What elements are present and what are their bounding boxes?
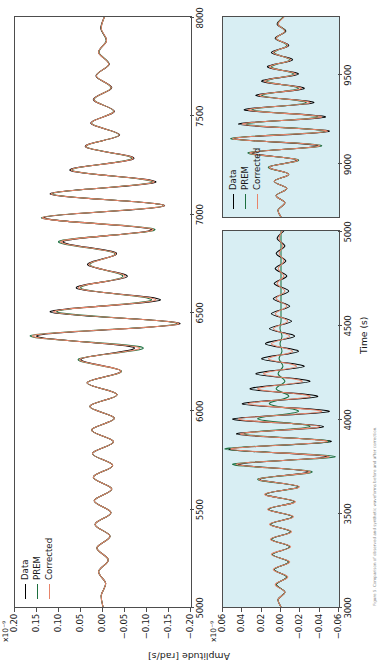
x-tick-mark (338, 513, 342, 514)
legend-label: Data (228, 169, 238, 190)
x-tick-mark (190, 17, 194, 18)
x-tick-mark (338, 163, 342, 164)
x-tick-label: 7500 (195, 106, 205, 127)
trace-corrected (231, 231, 330, 607)
chart-panel-top: DataPREMCorrected (14, 16, 192, 608)
y-tick-mark (241, 608, 242, 612)
y-tick-label: 0.00 (275, 614, 285, 646)
x-tick-mark (190, 509, 194, 510)
legend-item-corrected: Corrected (44, 538, 54, 599)
y-tick-label: 0.02 (256, 614, 266, 646)
legend-swatch-corrected-icon (257, 194, 258, 209)
y-tick-mark (146, 608, 147, 612)
legend-label: Data (20, 559, 30, 580)
legend-top: DataPREMCorrected (19, 536, 55, 601)
y-tick-mark (190, 608, 191, 612)
y-tick-mark (261, 608, 262, 612)
y-tick-label: −0.05 (119, 614, 129, 646)
waveform-traces-bottom-left (223, 231, 339, 607)
legend-swatch-data-icon (25, 584, 26, 599)
y-tick-mark (58, 608, 59, 612)
legend-swatch-data-icon (233, 194, 234, 209)
x-tick-mark (190, 410, 194, 411)
x-tick-mark (338, 419, 342, 420)
legend-item-prem: PREM (32, 538, 42, 599)
y-tick-label: −0.04 (314, 614, 324, 646)
x-tick-label: 7000 (195, 204, 205, 225)
y-tick-mark (124, 608, 125, 612)
x-tick-mark (190, 115, 194, 116)
y-tick-mark (36, 608, 37, 612)
seismogram-figure: DataPREMCorrected x10⁻⁹ 5000550060006500… (0, 0, 386, 670)
chart-panel-bottom-left (222, 230, 340, 608)
legend-swatch-prem-icon (37, 584, 38, 599)
figure-rotation-wrapper: DataPREMCorrected x10⁻⁹ 5000550060006500… (0, 0, 386, 670)
legend-label: PREM (32, 556, 42, 580)
x-tick-mark (338, 231, 342, 232)
y-tick-mark (168, 608, 169, 612)
x-tick-label: 5000 (195, 597, 205, 618)
x-tick-label: 6500 (195, 302, 205, 323)
y-tick-label: 0.00 (97, 614, 107, 646)
legend-label: PREM (240, 166, 250, 190)
x-tick-label: 6000 (195, 401, 205, 422)
y-tick-mark (80, 608, 81, 612)
y-tick-label: 0.04 (236, 614, 246, 646)
legend-item-data: Data (228, 148, 238, 209)
y-tick-mark (280, 608, 281, 612)
y-tick-label: −0.06 (333, 614, 343, 646)
waveform-traces-top (15, 17, 191, 607)
x-tick-mark (190, 312, 194, 313)
x-axis-label: Time (s) (358, 317, 369, 354)
x-tick-label: 3500 (343, 503, 353, 524)
y-tick-label: −0.20 (185, 614, 195, 646)
y-tick-label: 0.10 (53, 614, 63, 646)
y-tick-label: −0.10 (141, 614, 151, 646)
y-tick-mark (299, 608, 300, 612)
legend-label: Corrected (252, 148, 262, 190)
legend-item-corrected: Corrected (252, 148, 262, 209)
figure-caption: Figure 5. Comparison of observed and syn… (372, 356, 378, 606)
trace-corrected (32, 17, 178, 607)
x-tick-label: 4500 (343, 315, 353, 336)
x-tick-label: 9000 (343, 154, 353, 175)
x-tick-label: 5000 (343, 221, 353, 242)
x-tick-mark (338, 74, 342, 75)
x-tick-label: 9500 (343, 65, 353, 86)
x-tick-mark (190, 214, 194, 215)
y-tick-mark (222, 608, 223, 612)
chart-panel-bottom-right: DataPREMCorrected (222, 16, 340, 218)
x-tick-label: 4000 (343, 409, 353, 430)
y-tick-label: 0.06 (217, 614, 227, 646)
legend-item-data: Data (20, 538, 30, 599)
y-tick-label: 0.15 (31, 614, 41, 646)
legend-swatch-corrected-icon (49, 584, 50, 599)
y-tick-mark (102, 608, 103, 612)
x-tick-label: 5500 (195, 499, 205, 520)
y-axis-label: Amplitude [rad/s] (148, 651, 230, 662)
x-tick-label: 3000 (343, 597, 353, 618)
x-tick-label: 8000 (195, 7, 205, 28)
y-tick-mark (319, 608, 320, 612)
legend-bottom-right: DataPREMCorrected (227, 146, 263, 211)
y-tick-label: 0.20 (9, 614, 19, 646)
y-tick-mark (14, 608, 15, 612)
y-tick-label: −0.15 (163, 614, 173, 646)
legend-label: Corrected (44, 538, 54, 580)
legend-item-prem: PREM (240, 148, 250, 209)
legend-swatch-prem-icon (245, 194, 246, 209)
x-tick-mark (338, 325, 342, 326)
y-tick-mark (338, 608, 339, 612)
y-tick-label: 0.05 (75, 614, 85, 646)
y-tick-label: −0.02 (294, 614, 304, 646)
